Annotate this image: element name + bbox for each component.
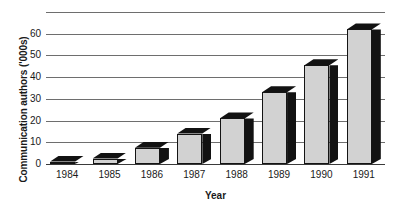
- bar-face-1986: [135, 148, 160, 164]
- bar-side-1988: [245, 118, 254, 164]
- bar-1991: [347, 12, 375, 164]
- bar-top-1990: [304, 59, 338, 65]
- bar-1990: [304, 12, 332, 164]
- bar-1984: [50, 12, 78, 164]
- bar-side-1991: [372, 29, 381, 164]
- x-tick-label-1985: 1985: [90, 169, 130, 180]
- bar-face-1987: [177, 134, 202, 164]
- bar-top-1985: [93, 153, 127, 159]
- bar-side-1984: [75, 162, 84, 165]
- bar-top-1984: [50, 156, 84, 162]
- bar-1987: [177, 12, 205, 164]
- x-tick-label-1986: 1986: [132, 169, 172, 180]
- bar-top-1989: [262, 86, 296, 92]
- bar-top-1988: [220, 112, 254, 118]
- y-tick-label-60: 60: [30, 29, 41, 39]
- bar-top-1991: [347, 23, 381, 29]
- x-tick-label-1988: 1988: [217, 169, 257, 180]
- bar-chart: Communication authors ('000s) 0102030405…: [0, 0, 401, 219]
- bar-face-1989: [262, 92, 287, 164]
- axis-baseline: [46, 164, 385, 165]
- bar-1989: [262, 12, 290, 164]
- bar-top-1986: [135, 142, 169, 148]
- bar-top-1987: [177, 128, 211, 134]
- bar-face-1988: [220, 118, 245, 164]
- bar-side-1987: [202, 134, 211, 164]
- x-tick-label-1990: 1990: [301, 169, 341, 180]
- y-tick-label-10: 10: [30, 137, 41, 147]
- plot-area: 0102030405060: [46, 12, 385, 164]
- x-tick-label-1989: 1989: [259, 169, 299, 180]
- bars-group: [46, 12, 385, 164]
- y-tick-label-50: 50: [30, 50, 41, 60]
- x-tick-label-1984: 1984: [47, 169, 87, 180]
- y-tick-label-20: 20: [30, 116, 41, 126]
- x-axis-title: Year: [46, 190, 385, 201]
- bar-face-1991: [347, 29, 372, 164]
- x-tick-label-1991: 1991: [344, 169, 384, 180]
- bar-face-1984: [50, 162, 75, 165]
- bar-side-1989: [287, 92, 296, 164]
- bar-side-1986: [160, 148, 169, 164]
- x-tick-label-1987: 1987: [174, 169, 214, 180]
- bar-1986: [135, 12, 163, 164]
- bar-side-1985: [118, 159, 127, 164]
- y-tick-label-30: 30: [30, 94, 41, 104]
- bar-1985: [93, 12, 121, 164]
- bar-face-1985: [93, 159, 118, 164]
- y-tick-label-0: 0: [35, 159, 41, 169]
- bar-side-1990: [329, 65, 338, 164]
- y-tick-label-40: 40: [30, 72, 41, 82]
- bar-face-1990: [304, 65, 329, 164]
- bar-1988: [220, 12, 248, 164]
